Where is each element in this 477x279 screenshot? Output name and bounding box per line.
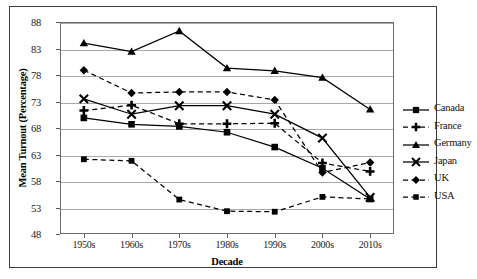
series-marker-uk [366,158,374,166]
chart-frame: Mean Turnout (Percentage) Decade 4853586… [9,6,437,268]
series-marker-usa [81,156,87,162]
series-marker-japan [80,95,88,103]
legend-label: France [434,120,461,131]
series-marker-usa [224,208,230,214]
series-marker-france [366,167,375,176]
series-line-japan [84,99,370,198]
figure-caption [10,272,436,279]
series-marker-uk [223,88,231,96]
series-marker-uk [271,96,279,104]
series-layer [10,7,438,269]
series-marker-france [223,119,232,128]
legend-label: Germany [434,137,472,148]
series-marker-germany [366,105,374,112]
series-marker-usa [272,209,278,215]
series-line-usa [84,159,370,211]
series-marker-canada [128,121,135,128]
series-marker-germany [80,39,88,46]
series-marker-canada [271,144,278,151]
series-marker-usa [367,196,373,202]
series-marker-canada [224,129,231,136]
series-marker-uk [80,66,88,74]
series-marker-canada [81,115,88,122]
legend-label: Canada [434,102,464,113]
series-marker-usa [320,194,326,200]
series-marker-uk [175,88,183,96]
series-marker-uk [127,89,135,97]
series-marker-usa [176,197,182,203]
series-marker-france [127,101,136,110]
series-marker-germany [175,27,183,34]
series-marker-japan [318,134,326,142]
series-marker-germany [223,64,231,71]
series-marker-usa [129,158,135,164]
series-line-france [84,105,370,171]
series-marker-france [79,106,88,115]
